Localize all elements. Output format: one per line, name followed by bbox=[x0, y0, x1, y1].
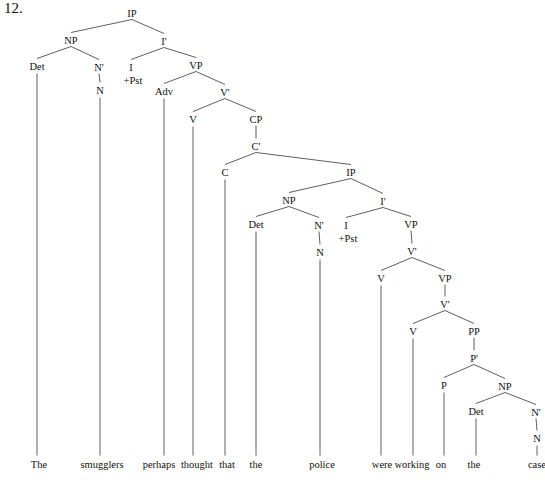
terminal-word: case bbox=[528, 459, 545, 470]
tree-node-label-n2: N bbox=[316, 247, 324, 258]
tree-edge-vbar1-cp1 bbox=[225, 99, 256, 112]
tree-edge-np2-nbar2 bbox=[289, 207, 319, 218]
tree-node-label-n1: N bbox=[96, 85, 104, 96]
tree-edge-np2-det2 bbox=[256, 207, 289, 217]
tree-edge-vbar1-v1 bbox=[193, 99, 225, 112]
tree-node-label-np3: NP bbox=[498, 381, 512, 392]
tree-node-label-cp1: CP bbox=[250, 114, 263, 125]
tree-edge-ibar2-i2 bbox=[346, 208, 383, 218]
terminal-word: the bbox=[250, 459, 263, 470]
tree-node-label-ibar2: I' bbox=[380, 196, 385, 207]
tree-node-label-c1: C bbox=[221, 167, 228, 178]
tree-node-label-p1: P bbox=[441, 380, 447, 391]
terminal-word: working bbox=[395, 459, 431, 470]
tree-edge-vbar3-pp1 bbox=[445, 311, 474, 324]
tree-node-label-v1: V bbox=[189, 114, 197, 125]
tree-edge-ibar1-vp1 bbox=[164, 48, 196, 58]
tree-node-label-vbar1: V' bbox=[220, 87, 230, 98]
tree-edge-ip2-ibar2 bbox=[351, 179, 383, 194]
tree-node-label-det1: Det bbox=[29, 61, 44, 72]
tree-node-label-np1: NP bbox=[64, 35, 78, 46]
terminal-word: were bbox=[372, 459, 393, 470]
tree-edge-nbar3-n3 bbox=[536, 419, 537, 431]
tree-edge-np3-det3 bbox=[476, 393, 505, 404]
tree-node-label-n3: N bbox=[533, 433, 541, 444]
tree-node-label-i1: I bbox=[129, 62, 133, 73]
tree-edge-vbar3-v3 bbox=[413, 311, 445, 324]
tree-node-label-ibar1: I' bbox=[161, 36, 166, 47]
tree-node-label-v2: V bbox=[377, 273, 385, 284]
tree-node-label-pp1: PP bbox=[468, 326, 480, 337]
tree-node-label-vp1: VP bbox=[189, 60, 203, 71]
terminal-word: perhaps bbox=[143, 459, 176, 470]
tree-edge-vbar2-v2 bbox=[381, 258, 412, 271]
tree-edge-vp1-adv1 bbox=[164, 72, 196, 84]
syntax-tree-figure: 12. Thesmugglersperhapsthoughtthatthepol… bbox=[0, 0, 545, 480]
tree-edge-cbar1-c1 bbox=[225, 153, 256, 165]
tree-node-label-vbar2: V' bbox=[407, 246, 417, 257]
syntax-tree-diagram: Thesmugglersperhapsthoughtthatthepolicew… bbox=[0, 0, 545, 480]
tree-edge-vbar2-vp3 bbox=[412, 258, 445, 271]
tree-edge-cbar1-ip2 bbox=[256, 153, 351, 165]
tree-edge-ibar1-i1 bbox=[131, 48, 164, 60]
tree-edge-ip1-np1 bbox=[71, 20, 132, 33]
tree-edge-pbar1-np3 bbox=[474, 365, 505, 379]
tree-node-label-det2: Det bbox=[248, 219, 263, 230]
tree-node-label-vp3: VP bbox=[438, 273, 452, 284]
tree-node-label-vbar3: V' bbox=[440, 299, 450, 310]
tense-feature-label-i1: +Pst bbox=[124, 75, 143, 86]
terminal-word: The bbox=[31, 459, 48, 470]
terminal-word: smugglers bbox=[80, 459, 123, 470]
tree-edge-vp2-vbar2 bbox=[411, 231, 412, 244]
terminal-word: thought bbox=[181, 459, 213, 470]
tree-edge-ibar2-vp2 bbox=[383, 208, 411, 217]
tree-node-label-v3: V bbox=[409, 326, 417, 337]
tree-edge-np1-nbar1 bbox=[71, 47, 99, 60]
tree-edge-vp1-vbar1 bbox=[196, 72, 225, 85]
tree-edge-ip2-np2 bbox=[289, 179, 351, 193]
tree-edge-pbar1-p1 bbox=[444, 365, 474, 378]
terminal-word: that bbox=[219, 459, 235, 470]
tree-node-label-np2: NP bbox=[282, 195, 296, 206]
tree-node-label-nbar2: N' bbox=[314, 220, 324, 231]
tree-edge-np1-det1 bbox=[37, 47, 71, 59]
tree-node-label-vp2: VP bbox=[404, 219, 418, 230]
terminal-word: the bbox=[468, 459, 481, 470]
tree-node-label-adv1: Adv bbox=[155, 86, 174, 97]
tree-edge-nbar2-n2 bbox=[319, 232, 320, 245]
tree-edge-np3-nbar3 bbox=[505, 393, 536, 405]
tree-node-label-nbar1: N' bbox=[94, 62, 104, 73]
tree-node-label-det3: Det bbox=[468, 406, 483, 417]
tree-node-label-ip1: IP bbox=[127, 8, 136, 19]
tree-edge-nbar1-n1 bbox=[99, 74, 100, 83]
terminal-word: on bbox=[436, 459, 447, 470]
tree-node-label-cbar1: C' bbox=[252, 141, 261, 152]
tree-node-label-i2: I bbox=[344, 220, 348, 231]
tree-node-label-pbar1: P' bbox=[470, 353, 478, 364]
tree-node-label-ip2: IP bbox=[346, 167, 355, 178]
terminal-word: police bbox=[309, 459, 335, 470]
tree-node-label-nbar3: N' bbox=[531, 407, 541, 418]
tense-feature-label-i2: +Pst bbox=[339, 233, 358, 244]
tree-edge-ip1-ibar1 bbox=[132, 20, 164, 34]
